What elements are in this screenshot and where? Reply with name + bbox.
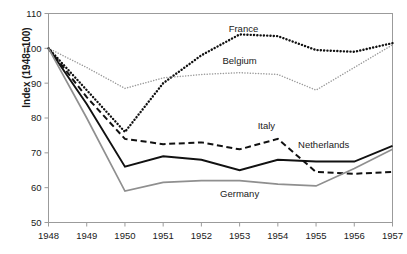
axis-layer: 1101009080706050194819491950195119521953… [26, 8, 403, 241]
x-tick-label: 1952 [191, 230, 212, 241]
x-tick-label: 1954 [267, 230, 288, 241]
series-label-germany: Germany [220, 188, 259, 199]
y-tick-label: 110 [26, 8, 41, 19]
x-tick-label: 1955 [305, 230, 326, 241]
y-tick-label: 50 [31, 217, 42, 228]
series-line-france [49, 34, 393, 132]
x-tick-label: 1953 [229, 230, 250, 241]
x-tick-label: 1948 [38, 230, 59, 241]
series-line-germany [49, 48, 393, 191]
series-line-italy [49, 48, 393, 173]
series-label-belgium: Belgium [222, 55, 256, 66]
y-tick-label: 80 [31, 112, 42, 123]
y-tick-label: 100 [26, 43, 42, 54]
x-tick-label: 1956 [344, 230, 365, 241]
line-chart-plot: 1101009080706050194819491950195119521953… [0, 0, 407, 254]
x-tick-label: 1957 [382, 230, 403, 241]
y-tick-label: 60 [31, 182, 42, 193]
x-tick-label: 1950 [114, 230, 135, 241]
series-label-italy: Italy [258, 120, 276, 131]
x-tick-label: 1949 [76, 230, 97, 241]
series-line-netherlands [49, 48, 393, 170]
series-label-france: France [229, 23, 259, 34]
y-tick-label: 90 [31, 78, 42, 89]
series-layer [49, 34, 393, 191]
series-label-netherlands: Netherlands [298, 139, 349, 150]
y-tick-label: 70 [31, 147, 42, 158]
x-tick-label: 1951 [153, 230, 174, 241]
chart-container: Index (1948=100) 11010090807060501948194… [0, 0, 407, 254]
